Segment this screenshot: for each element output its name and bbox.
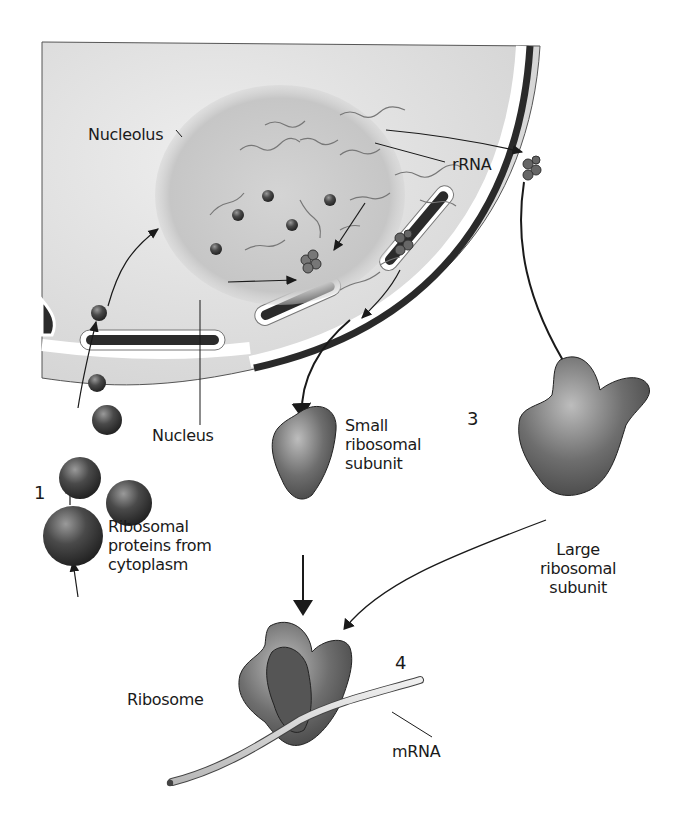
step-3-label: 3 [467, 408, 478, 429]
ribosome-label: Ribosome [127, 690, 204, 709]
ribosomal-proteins-label: Ribosomal proteins from cytoplasm [108, 517, 212, 574]
small-subunit-label: Small ribosomal subunit [345, 416, 421, 473]
nucleus-label: Nucleus [152, 426, 214, 445]
nucleolus-label: Nucleolus [88, 125, 163, 144]
mrna-label: mRNA [392, 742, 440, 761]
large-subunit-shape [519, 357, 650, 496]
large-subunit-label: Large ribosomal subunit [540, 540, 616, 597]
ribosome-assembly-diagram [0, 0, 677, 825]
subunit-cluster-3 [523, 156, 541, 180]
small-subunit-shape [272, 406, 336, 499]
step-1-label: 1 [34, 482, 45, 503]
step-4-label: 4 [395, 652, 406, 673]
rrna-label: rRNA [452, 155, 491, 174]
